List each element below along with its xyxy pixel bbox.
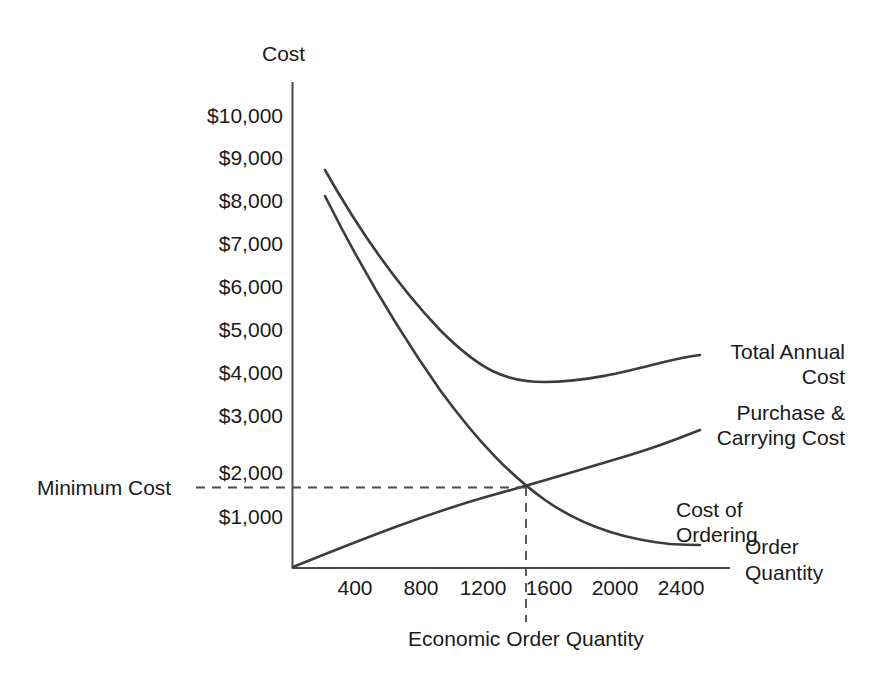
minimum-cost-annotation-label: Minimum Cost <box>37 476 171 501</box>
y-tick-label-8000: $8,000 <box>143 189 283 214</box>
series-label-cost-of-ordering-line1: Cost of <box>676 498 743 523</box>
x-axis-title-line1: Order <box>745 535 799 560</box>
y-tick-label-9000: $9,000 <box>143 146 283 171</box>
y-axis-title: Cost <box>262 42 305 67</box>
y-tick-label-4000: $4,000 <box>143 361 283 386</box>
x-tick-label-2400: 2400 <box>641 576 721 601</box>
y-tick-label-5000: $5,000 <box>143 318 283 343</box>
y-tick-label-1000: $1,000 <box>143 505 283 530</box>
series-label-total-annual-cost-line2: Cost <box>605 365 845 390</box>
y-tick-label-7000: $7,000 <box>143 232 283 257</box>
y-tick-label-6000: $6,000 <box>143 275 283 300</box>
economic-order-quantity-annotation-label: Economic Order Quantity <box>376 627 676 652</box>
y-tick-label-3000: $3,000 <box>143 404 283 429</box>
series-label-total-annual-cost-line1: Total Annual <box>605 340 845 365</box>
eoq-chart: Cost $10,000 $9,000 $8,000 $7,000 $6,000… <box>0 0 874 682</box>
x-axis-title-line2: Quantity <box>745 561 823 586</box>
y-tick-label-10000: $10,000 <box>143 104 283 129</box>
series-label-purchase-carrying-line1: Purchase & <box>605 401 845 426</box>
series-label-purchase-carrying-line2: Carrying Cost <box>605 426 845 451</box>
